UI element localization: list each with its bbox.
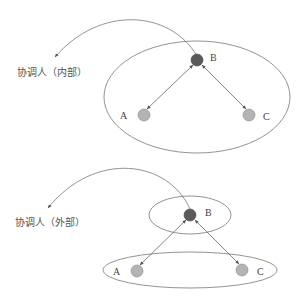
edge-b-a	[140, 220, 186, 265]
node-label-b: B	[205, 207, 212, 218]
coordinator-diagram: B A C 协调人（内部） B A C 协调人（外部）	[0, 0, 303, 306]
node-b	[184, 209, 196, 221]
coordinator-label-internal: 协调人（内部）	[17, 66, 87, 78]
edge-b-c	[195, 220, 239, 264]
node-a	[131, 265, 143, 277]
node-label-c: C	[263, 111, 270, 122]
node-label-a: A	[113, 266, 121, 277]
coordinator-arrow-curve	[55, 20, 197, 57]
edge-b-a	[147, 65, 193, 109]
node-c	[243, 109, 255, 121]
edge-b-c	[202, 65, 246, 109]
group-ellipse-ac	[103, 252, 277, 288]
node-c	[236, 264, 248, 276]
diagram-internal: B A C 协调人（内部）	[17, 20, 290, 153]
node-label-b: B	[210, 52, 217, 63]
coordinator-arrow-curve	[48, 168, 190, 209]
node-label-a: A	[120, 110, 128, 121]
node-b	[191, 54, 203, 66]
coordinator-label-external: 协调人（外部）	[15, 216, 85, 228]
node-a	[138, 109, 150, 121]
node-label-c: C	[257, 266, 264, 277]
diagram-external: B A C 协调人（外部）	[15, 168, 277, 288]
